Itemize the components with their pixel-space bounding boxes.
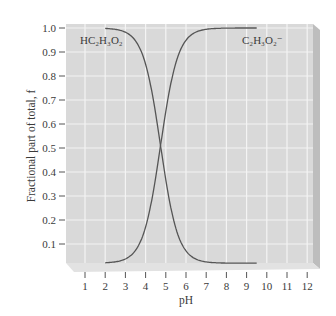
y-tick-label: 0.7 xyxy=(42,94,56,106)
y-axis: 0.10.20.30.40.50.60.70.80.91.0 xyxy=(42,22,65,250)
x-tick-label: 6 xyxy=(183,280,189,292)
x-tick-label: 11 xyxy=(282,280,293,292)
x-tick-label: 7 xyxy=(203,280,209,292)
x-axis-label: pH xyxy=(179,294,193,307)
y-tick-label: 0.6 xyxy=(42,118,56,130)
x-tick-label: 5 xyxy=(163,280,169,292)
x-axis: 123456789101112 xyxy=(82,272,312,292)
x-tick-label: 1 xyxy=(82,280,88,292)
y-tick-label: 0.3 xyxy=(42,190,56,202)
y-tick-label: 0.5 xyxy=(42,142,56,154)
series-label-acetic-acid: HC₂H₃O₂ xyxy=(80,34,123,46)
x-tick-label: 4 xyxy=(143,280,149,292)
chart: 0.10.20.30.40.50.60.70.80.91.0 123456789… xyxy=(0,0,336,316)
x-tick-label: 12 xyxy=(302,280,313,292)
y-tick-label: 0.9 xyxy=(42,46,56,58)
x-tick-label: 9 xyxy=(244,280,250,292)
y-tick-label: 1.0 xyxy=(42,22,56,34)
x-tick-label: 3 xyxy=(123,280,129,292)
y-tick-label: 0.2 xyxy=(42,214,56,226)
x-tick-label: 10 xyxy=(261,280,273,292)
x-tick-label: 8 xyxy=(224,280,230,292)
y-tick-label: 0.8 xyxy=(42,70,56,82)
y-tick-label: 0.1 xyxy=(42,238,56,250)
y-axis-label: Fractional part of total, f xyxy=(25,89,38,202)
series-label-acetate-ion: C₂H₃O₂⁻ xyxy=(242,34,283,46)
y-tick-label: 0.4 xyxy=(42,166,56,178)
x-tick-label: 2 xyxy=(102,280,108,292)
